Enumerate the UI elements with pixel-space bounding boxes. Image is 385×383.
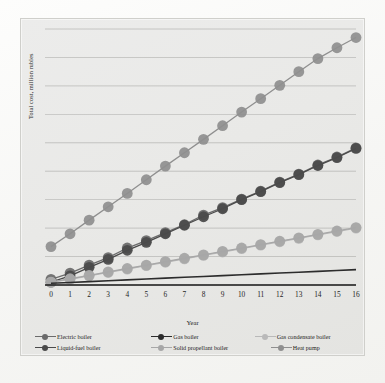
legend-marker-icon <box>271 344 292 351</box>
data-point <box>312 160 323 171</box>
data-point <box>255 186 266 197</box>
x-tick-label: 8 <box>202 290 206 299</box>
x-axis-label: Year <box>21 319 364 326</box>
series-gas-boiler <box>51 270 356 284</box>
data-point <box>274 236 285 247</box>
data-point <box>332 42 343 53</box>
data-point <box>160 161 171 172</box>
series-group <box>46 32 362 287</box>
data-point <box>293 66 304 77</box>
data-point <box>255 93 266 104</box>
legend-item-solid-propellant-boiler[interactable]: Solid propellant boiler <box>151 344 271 351</box>
data-point <box>179 253 190 264</box>
x-tick-label: 5 <box>144 290 148 299</box>
data-point <box>160 256 171 267</box>
x-tick-label: 1 <box>68 290 72 299</box>
data-point <box>332 152 343 163</box>
x-tick-label: 16 <box>352 290 360 299</box>
data-point <box>351 32 362 43</box>
data-point <box>332 226 343 237</box>
plot-area: Total cost, million rubles 0123456789101… <box>39 23 362 309</box>
legend-marker-icon <box>151 344 172 351</box>
legend-label: Gas boiler <box>173 334 198 340</box>
data-point <box>217 120 228 131</box>
series-line <box>51 270 356 284</box>
data-point <box>312 53 323 64</box>
data-point <box>198 211 209 222</box>
data-point <box>103 267 114 278</box>
data-point <box>198 134 209 145</box>
data-point <box>293 169 304 180</box>
legend-row-2: Liquid-fuel boiler Solid propellant boil… <box>27 342 358 353</box>
x-tick-label: 9 <box>221 290 225 299</box>
data-point <box>293 232 304 243</box>
x-tick-label: 7 <box>183 290 187 299</box>
x-tick-label: 2 <box>87 290 91 299</box>
x-tick-label: 10 <box>238 290 246 299</box>
series-liquid-fuel-boiler <box>46 143 362 287</box>
data-point <box>160 228 171 239</box>
x-tick-label: 11 <box>257 290 264 299</box>
data-point <box>198 249 209 260</box>
data-point <box>236 194 247 205</box>
legend-item-heat-pump[interactable]: Heat pump <box>271 344 358 351</box>
legend-label: Heat pump <box>293 345 320 351</box>
data-point <box>217 203 228 214</box>
legend-marker-icon <box>255 333 276 340</box>
x-tick-label: 4 <box>125 290 129 299</box>
y-axis-label: Total cost, million rubles <box>27 0 34 119</box>
legend-marker-icon <box>151 333 172 340</box>
data-point <box>217 246 228 257</box>
chart-legend: Electric boiler Gas boiler Gas condensat… <box>27 331 358 353</box>
data-point <box>312 229 323 240</box>
legend-label: Solid propellant boiler <box>173 345 228 351</box>
data-point <box>141 174 152 185</box>
data-point <box>179 220 190 231</box>
data-point <box>65 228 76 239</box>
data-point <box>236 107 247 118</box>
chart-figure: Total cost, million rubles 0123456789101… <box>20 18 365 356</box>
legend-item-electric-boiler[interactable]: Electric boiler <box>27 333 151 340</box>
data-point <box>274 80 285 91</box>
legend-item-liquid-fuel-boiler[interactable]: Liquid-fuel boiler <box>27 344 151 351</box>
data-point <box>84 270 95 281</box>
data-point <box>84 215 95 226</box>
legend-label: Liquid-fuel boiler <box>57 345 101 351</box>
legend-item-gas-condensate-boiler[interactable]: Gas condensate boiler <box>255 333 358 340</box>
data-point <box>122 245 133 256</box>
series-solid-propellant-boiler <box>46 222 362 287</box>
legend-label: Gas condensate boiler <box>277 334 331 340</box>
x-tick-label: 0 <box>49 290 53 299</box>
legend-marker-icon <box>35 344 56 351</box>
data-point <box>141 260 152 271</box>
data-point <box>122 188 133 199</box>
data-point <box>351 222 362 233</box>
data-point <box>103 201 114 212</box>
x-tick-label: 12 <box>276 290 284 299</box>
data-point <box>179 147 190 158</box>
line-chart-svg: 012345678910111213141516 <box>39 23 362 323</box>
legend-item-gas-boiler[interactable]: Gas boiler <box>151 333 254 340</box>
data-point <box>122 263 133 274</box>
x-tick-label: 14 <box>314 290 322 299</box>
data-point <box>141 237 152 248</box>
legend-row-1: Electric boiler Gas boiler Gas condensat… <box>27 331 358 342</box>
data-point <box>103 254 114 265</box>
data-point <box>351 143 362 154</box>
legend-marker-icon <box>35 333 56 340</box>
x-tick-label: 13 <box>295 290 303 299</box>
data-point <box>255 239 266 250</box>
data-point <box>274 177 285 188</box>
data-point <box>46 277 57 288</box>
legend-label: Electric boiler <box>57 334 92 340</box>
x-tick-label: 3 <box>106 290 110 299</box>
x-axis-ticks: 012345678910111213141516 <box>49 290 360 299</box>
data-point <box>236 243 247 254</box>
data-point <box>46 241 57 252</box>
x-tick-label: 15 <box>333 290 341 299</box>
x-tick-label: 6 <box>164 290 168 299</box>
gridlines-group <box>45 29 356 285</box>
